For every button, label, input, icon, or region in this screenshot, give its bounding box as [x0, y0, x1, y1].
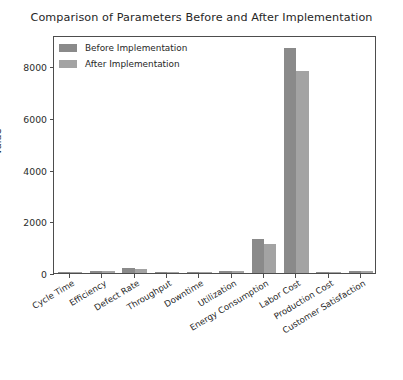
legend-label: Before Implementation — [85, 44, 187, 53]
bar — [122, 268, 134, 273]
x-axis-tick-mark — [231, 274, 232, 278]
chart-legend: Before ImplementationAfter Implementatio… — [59, 41, 187, 73]
x-axis-tick-mark — [328, 274, 329, 278]
legend-item: Before Implementation — [59, 41, 187, 55]
bar — [58, 272, 70, 273]
x-axis-tick-mark — [69, 274, 70, 278]
y-axis-tick-label: 8000 — [2, 62, 47, 73]
legend-item: After Implementation — [59, 57, 187, 71]
bar — [296, 71, 308, 273]
y-axis-tick-label: 2000 — [2, 217, 47, 228]
bar — [70, 272, 82, 273]
bar — [199, 272, 211, 273]
chart-title: Comparison of Parameters Before and Afte… — [0, 11, 403, 24]
bar — [232, 271, 244, 273]
x-axis-tick-mark — [134, 274, 135, 278]
bar — [102, 271, 114, 273]
y-axis-tick-mark — [50, 274, 54, 275]
bar — [187, 272, 199, 273]
y-axis-tick-label: 0 — [2, 269, 47, 280]
y-axis-tick-label: 6000 — [2, 113, 47, 124]
bar — [135, 269, 147, 273]
bar — [252, 239, 264, 273]
bar — [361, 271, 373, 273]
x-axis-tick-label: Cycle Time — [31, 278, 77, 311]
x-axis-tick-mark — [263, 274, 264, 278]
bar — [167, 272, 179, 273]
y-axis-label: Value — [0, 129, 3, 155]
bar — [90, 271, 102, 273]
legend-swatch-icon — [59, 44, 77, 52]
bar — [264, 244, 276, 273]
bar — [349, 271, 361, 273]
x-axis-tick-mark — [360, 274, 361, 278]
x-axis-tick-mark — [166, 274, 167, 278]
bar — [329, 272, 341, 273]
legend-label: After Implementation — [85, 60, 180, 69]
chart-figure: Comparison of Parameters Before and Afte… — [0, 0, 403, 380]
legend-swatch-icon — [59, 60, 77, 68]
bar — [155, 272, 167, 273]
bar — [316, 272, 328, 273]
bar — [284, 48, 296, 273]
bar — [219, 271, 231, 273]
y-axis-tick-label: 4000 — [2, 165, 47, 176]
